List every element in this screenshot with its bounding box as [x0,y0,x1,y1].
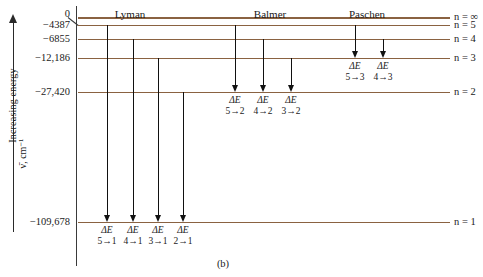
energy-level-line-1 [78,222,450,224]
energy-level-line-5 [78,25,450,27]
scale-spine [76,6,77,266]
level-label-1: n = 1 [454,216,476,227]
delta-e-label-3-to-2: ΔE 3→2 [270,95,312,117]
transition-arrowhead-5-to-1 [104,215,110,222]
scale-value-27420: −27,420 [0,86,70,97]
series-title-paschen: Paschen [337,8,397,20]
delta-e-transition-3-to-2: 3→2 [270,106,312,117]
delta-e-symbol-5-to-1: ΔE [101,225,112,235]
series-title-balmer: Balmer [240,8,300,20]
delta-e-symbol-3-to-2: ΔE [285,95,296,105]
figure-caption: (b) [203,258,243,269]
transition-arrowhead-4-to-3 [380,51,386,58]
level-label-4: n = 4 [454,33,476,44]
transition-arrow-5-to-2 [235,25,236,85]
delta-e-label-2-to-1: ΔE 2→1 [162,225,204,247]
scale-value-0: 0 [0,8,70,19]
transition-arrow-4-to-3 [383,39,384,51]
transition-arrowhead-2-to-1 [180,215,186,222]
delta-e-symbol-5-to-2: ΔE [229,95,240,105]
delta-e-symbol-5-to-3: ΔE [349,61,360,71]
delta-e-symbol-4-to-2: ΔE [257,95,268,105]
delta-e-label-4-to-3: ΔE 4→3 [362,61,404,83]
transition-arrow-4-to-2 [263,39,264,85]
wavenumber-axis-label: ν̄, cm⁻¹ [17,126,28,182]
transition-arrow-3-to-1 [158,58,159,215]
transition-arrow-4-to-1 [133,39,134,215]
level-label-5: n = 5 [454,19,476,30]
transition-arrowhead-3-to-1 [155,215,161,222]
delta-e-transition-2-to-1: 2→1 [162,236,204,247]
transition-arrowhead-4-to-2 [260,85,266,92]
level-label-3: n = 3 [454,52,476,63]
scale-value-12186: −12,186 [0,52,70,63]
delta-e-symbol-4-to-3: ΔE [377,61,388,71]
delta-e-transition-4-to-3: 4→3 [362,72,404,83]
transition-arrow-5-to-1 [107,25,108,215]
transition-arrowhead-5-to-2 [232,85,238,92]
transition-arrowhead-5-to-3 [352,51,358,58]
scale-value-109678: −109,678 [0,216,70,227]
energy-level-diagram: Increasing energy ν̄, cm⁻¹ 0 −4387 −6855… [0,0,483,277]
delta-e-symbol-2-to-1: ΔE [177,225,188,235]
transition-arrow-2-to-1 [183,92,184,215]
scale-value-6855: −6855 [0,33,70,44]
scale-value-4387: −4387 [0,19,70,30]
level-label-2: n = 2 [454,86,476,97]
series-title-lyman: Lyman [100,8,160,20]
transition-arrowhead-3-to-2 [288,85,294,92]
transition-arrow-3-to-2 [291,58,292,85]
transition-arrowhead-4-to-1 [130,215,136,222]
transition-arrow-5-to-3 [355,25,356,51]
